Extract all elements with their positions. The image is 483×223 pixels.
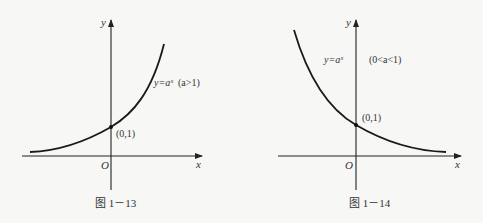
figure-1-13: (0,1) y x O y=aˣ (a>1) 图 1－13 (22, 16, 202, 209)
origin-label: O (101, 159, 109, 171)
figures-canvas: (0,1) y x O y=aˣ (a>1) 图 1－13 (0,1) y x … (0, 0, 483, 223)
y-axis-label: y (345, 16, 351, 28)
curve-label-cond: (a>1) (178, 77, 200, 89)
origin-label: O (345, 159, 353, 171)
y-axis-label: y (100, 16, 106, 28)
curve-label-func: y=aˣ (153, 77, 174, 88)
curve-label-func: y=aˣ (323, 54, 344, 65)
decay-curve (294, 30, 446, 152)
figure-1-14: (0,1) y x O y=aˣ (0<a<1) 图 1－14 (278, 16, 461, 209)
point-label: (0,1) (116, 128, 135, 140)
point-0-1 (109, 125, 113, 129)
curve-label-cond: (0<a<1) (369, 54, 401, 66)
caption: 图 1－13 (95, 197, 137, 209)
x-axis-label: x (454, 158, 460, 170)
point-label: (0,1) (362, 112, 381, 124)
caption: 图 1－14 (349, 197, 391, 209)
point-0-1 (354, 123, 358, 127)
growth-curve (30, 44, 164, 152)
x-axis-label: x (195, 158, 201, 170)
